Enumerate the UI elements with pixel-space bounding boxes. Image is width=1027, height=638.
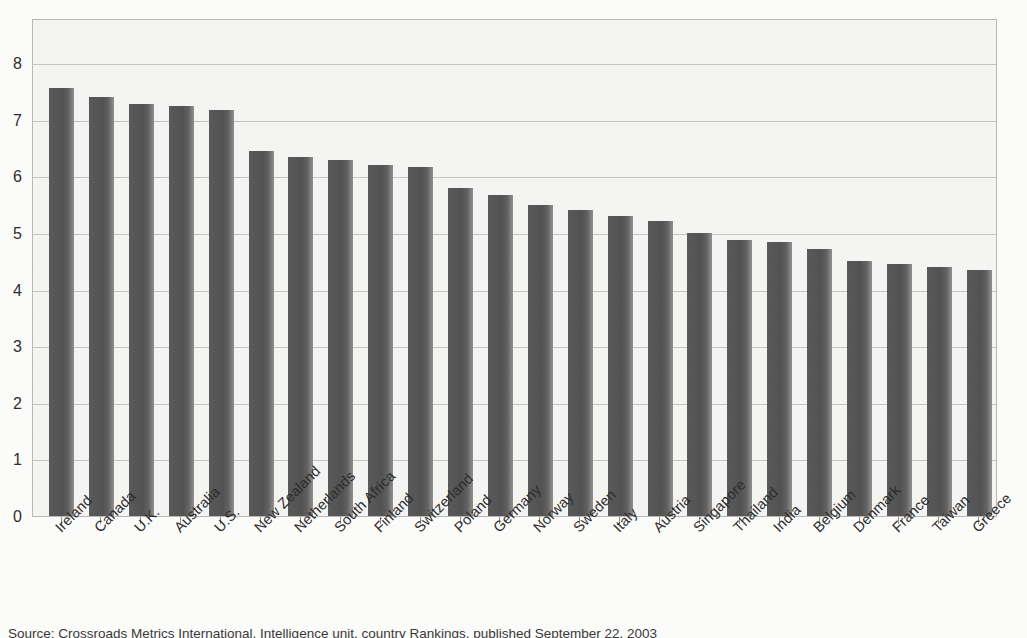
bar <box>807 249 832 516</box>
source-caption: Source: Crossroads Metrics International… <box>8 626 1008 638</box>
y-tick-label-4: 4 <box>0 283 22 299</box>
plot-area <box>32 19 997 517</box>
bar <box>528 205 553 516</box>
bar <box>328 160 353 516</box>
y-tick-label-2: 2 <box>0 396 22 412</box>
bar <box>209 110 234 516</box>
bar <box>967 270 992 516</box>
bar <box>608 216 633 516</box>
bar <box>488 195 513 516</box>
bar <box>648 221 673 516</box>
bar <box>767 242 792 516</box>
bar <box>288 157 313 516</box>
bar <box>448 188 473 516</box>
bar <box>89 97 114 516</box>
y-tick-label-0: 0 <box>0 509 22 525</box>
bar <box>408 167 433 516</box>
bar <box>249 151 274 516</box>
bar <box>129 104 154 516</box>
y-tick-label-8: 8 <box>0 56 22 72</box>
y-tick-label-7: 7 <box>0 113 22 129</box>
bar <box>847 261 872 516</box>
y-tick-label-6: 6 <box>0 169 22 185</box>
y-tick-label-1: 1 <box>0 452 22 468</box>
bar <box>49 88 74 516</box>
bar <box>568 210 593 516</box>
bar-chart-figure: 012345678 IrelandCanadaU.K.AustraliaU.S.… <box>0 0 1027 638</box>
bar <box>368 165 393 516</box>
bar <box>169 106 194 516</box>
bar <box>887 264 912 516</box>
bar <box>927 267 952 516</box>
gridline-8 <box>33 64 996 65</box>
bar <box>687 233 712 516</box>
y-tick-label-5: 5 <box>0 226 22 242</box>
bar <box>727 240 752 516</box>
y-tick-label-3: 3 <box>0 339 22 355</box>
